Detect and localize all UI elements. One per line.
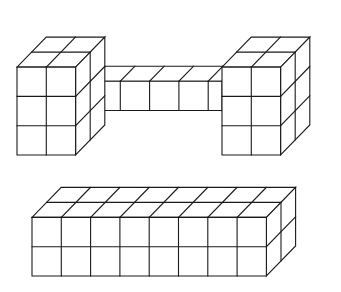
face (91, 81, 222, 110)
long-bar-cubes (32, 187, 296, 276)
cube-diagram (0, 0, 341, 292)
right-block-cubes (222, 37, 310, 155)
dumbbell-structure (17, 37, 310, 155)
bridge-cubes (91, 66, 237, 110)
left-block-cubes (17, 37, 105, 155)
long-bar-structure (32, 187, 296, 276)
